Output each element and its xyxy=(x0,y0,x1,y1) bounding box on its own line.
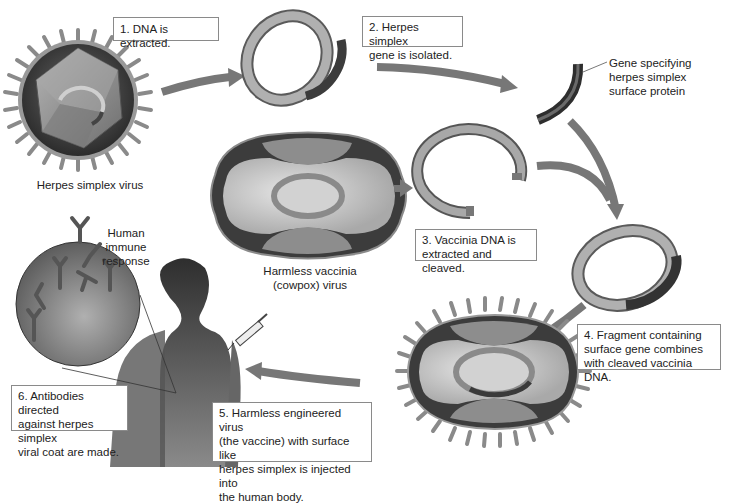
step-6-line-1: 6. Antibodies directed xyxy=(18,389,121,417)
herpes-virus-label-text: Herpes simplex virus xyxy=(37,179,144,191)
step-1-text: 1. DNA is extracted. xyxy=(120,23,171,49)
herpes-virus-icon xyxy=(5,30,151,170)
recombinant-dna-icon xyxy=(568,219,682,317)
step-5-line-4: the human body. xyxy=(219,490,365,504)
step-3-line-2: extracted and cleaved. xyxy=(422,247,530,275)
cleaved-dna-icon xyxy=(417,129,522,216)
step-4-box: 4. Fragment containing surface gene comb… xyxy=(577,324,721,370)
step-5-box: 5. Harmless engineered virus (the vaccin… xyxy=(212,402,372,462)
gene-fragment-icon xyxy=(538,62,607,120)
plasmid-dna-icon xyxy=(231,0,344,116)
step-3-box: 3. Vaccinia DNA is extracted and cleaved… xyxy=(415,229,537,261)
step-5-line-2: (the vaccine) with surface like xyxy=(219,434,365,462)
step-4-line-3: with cleaved vaccinia DNA. xyxy=(584,356,714,384)
vaccinia-label-line-2: (cowpox) virus xyxy=(255,278,365,292)
step-3-line-1: 3. Vaccinia DNA is xyxy=(422,233,530,247)
gene-label-line-1: Gene specifying xyxy=(609,56,691,70)
step-2-line-1: 2. Herpes simplex xyxy=(369,20,456,48)
step-6-line-3: viral coat are made. xyxy=(18,445,121,459)
gene-label: Gene specifying herpes simplex surface p… xyxy=(609,56,691,98)
flow-arrow-icon xyxy=(377,67,518,93)
step-5-line-3: herpes simplex is injected into xyxy=(219,462,365,490)
step-6-line-2: against herpes simplex xyxy=(18,417,121,445)
step-2-line-2: gene is isolated. xyxy=(369,48,456,62)
immune-label-line-1: Human immune xyxy=(86,226,166,254)
herpes-virus-label: Herpes simplex virus xyxy=(30,178,150,192)
step-1-box: 1. DNA is extracted. xyxy=(113,17,219,41)
flow-arrow-icon xyxy=(162,68,245,92)
vaccinia-label-line-1: Harmless vaccinia xyxy=(255,264,365,278)
immune-label-line-2: response xyxy=(86,254,166,268)
flow-arrow-icon xyxy=(537,121,624,220)
step-2-box: 2. Herpes simplex gene is isolated. xyxy=(362,16,463,47)
step-4-line-1: 4. Fragment containing xyxy=(584,328,714,342)
flow-arrow-icon xyxy=(245,362,360,383)
step-4-line-2: surface gene combines xyxy=(584,342,714,356)
gene-label-line-2: herpes simplex xyxy=(609,70,691,84)
immune-response-label: Human immune response xyxy=(86,226,166,268)
step-5-line-1: 5. Harmless engineered virus xyxy=(219,406,365,434)
gene-label-line-3: surface protein xyxy=(609,84,691,98)
step-6-box: 6. Antibodies directed against herpes si… xyxy=(11,385,128,431)
vaccinia-virus-label: Harmless vaccinia (cowpox) virus xyxy=(255,264,365,292)
vaccinia-virus-icon xyxy=(211,133,406,259)
